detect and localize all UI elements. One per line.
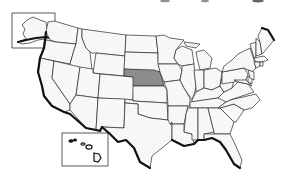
- top-edge-fragments: [160, 0, 264, 2]
- state-colorado[interactable]: [98, 74, 134, 100]
- island-kauai: [69, 140, 73, 142]
- state-north-dakota[interactable]: [125, 35, 158, 53]
- us-map: [0, 0, 296, 179]
- hawaii-inset-box: [62, 133, 108, 166]
- island-maui: [86, 145, 92, 149]
- state-kansas[interactable]: [133, 86, 167, 103]
- state-new-mexico[interactable]: [96, 98, 125, 131]
- state-massachusetts[interactable]: [254, 56, 268, 62]
- hawaii-inset: [62, 133, 108, 166]
- island-oahu: [74, 139, 77, 141]
- state-wisconsin[interactable]: [174, 46, 194, 66]
- state-arizona[interactable]: [70, 95, 98, 130]
- state-rhode-island[interactable]: [260, 62, 263, 66]
- state-new-york[interactable]: [222, 48, 256, 72]
- island-molokai: [81, 143, 85, 145]
- state-wyoming[interactable]: [93, 53, 125, 76]
- state-washington[interactable]: [46, 21, 78, 44]
